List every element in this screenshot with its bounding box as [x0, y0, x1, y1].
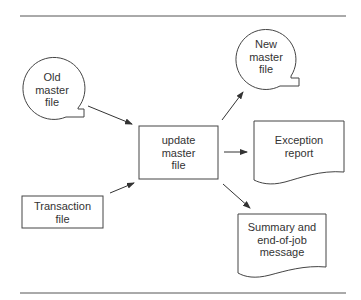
arrow-transaction-to-update	[110, 183, 134, 193]
old-master-file-label: Old master file	[22, 71, 82, 109]
exception-report-label: Exception report	[254, 134, 344, 159]
summary-message-label: Summary and end-of-job message	[238, 221, 326, 259]
new-master-file-label: New master file	[236, 38, 296, 76]
update-master-file-label: update master file	[139, 134, 218, 172]
arrow-update-to-new	[222, 92, 243, 120]
transaction-file-label: Transaction file	[22, 200, 103, 225]
arrow-update-to-summary	[223, 184, 250, 208]
arrow-old-to-update	[88, 106, 132, 124]
